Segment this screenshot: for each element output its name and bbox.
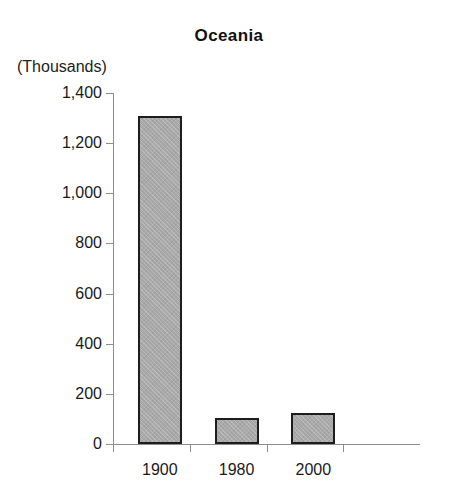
bar bbox=[215, 418, 259, 444]
y-axis-tick bbox=[106, 394, 114, 395]
x-axis-tick-label: 2000 bbox=[296, 461, 332, 479]
y-axis-tick bbox=[106, 243, 114, 244]
y-axis-tick-label: 0 bbox=[93, 435, 102, 453]
y-axis-tick-label: 1,000 bbox=[62, 184, 102, 202]
y-axis-tick-label: 400 bbox=[75, 335, 102, 353]
y-axis-tick-label: 600 bbox=[75, 285, 102, 303]
y-axis-tick-label: 800 bbox=[75, 234, 102, 252]
bar-chart-figure: Oceania (Thousands) 02004006008001,0001,… bbox=[0, 0, 458, 497]
x-axis-tick bbox=[113, 444, 114, 452]
y-axis-tick bbox=[106, 143, 114, 144]
plot-area: 02004006008001,0001,2001,400 19001980200… bbox=[113, 93, 420, 444]
y-axis-tick bbox=[106, 294, 114, 295]
chart-title: Oceania bbox=[0, 26, 458, 46]
y-axis-tick bbox=[106, 193, 114, 194]
x-axis-tick-label: 1980 bbox=[219, 461, 255, 479]
x-axis-tick bbox=[343, 444, 344, 452]
y-axis-tick-label: 1,200 bbox=[62, 134, 102, 152]
y-axis-tick bbox=[106, 93, 114, 94]
bar bbox=[291, 413, 335, 444]
x-axis-tick bbox=[190, 444, 191, 452]
bar bbox=[138, 116, 182, 444]
y-axis-tick-label: 200 bbox=[75, 385, 102, 403]
y-axis-tick-label: 1,400 bbox=[62, 84, 102, 102]
x-axis-tick-label: 1900 bbox=[142, 461, 178, 479]
y-axis-line bbox=[113, 93, 114, 445]
x-axis-tick bbox=[267, 444, 268, 452]
y-axis-tick bbox=[106, 344, 114, 345]
y-axis-unit-label: (Thousands) bbox=[17, 58, 107, 76]
